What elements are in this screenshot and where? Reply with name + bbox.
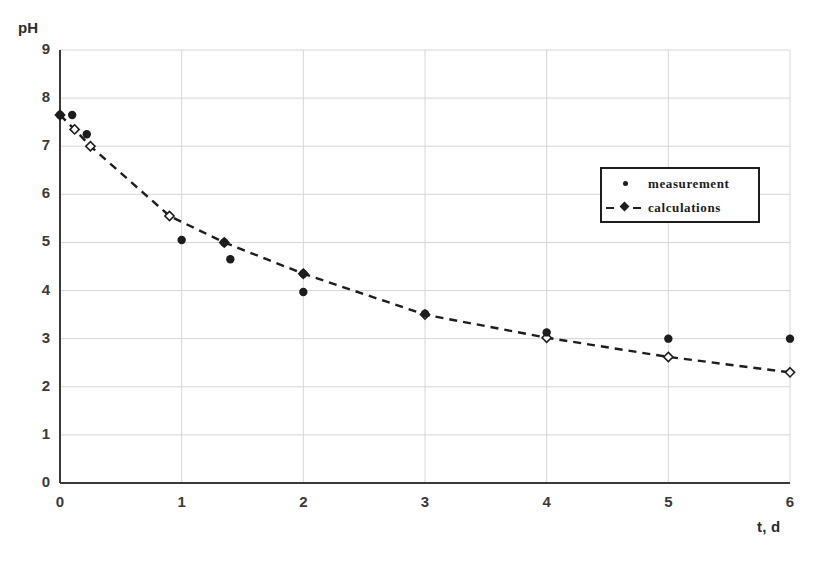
x-tick-label: 5 [656,493,680,510]
y-tick-label: 3 [28,329,50,346]
legend-item-measurement: measurement [602,172,758,196]
y-tick-label: 0 [28,473,50,490]
x-tick-label: 0 [48,493,72,510]
legend-item-calculations: calculations [602,196,758,220]
y-tick-label: 1 [28,425,50,442]
y-tick-label: 6 [28,184,50,201]
ph-vs-time-scatter-chart [0,0,820,563]
x-tick-label: 2 [291,493,315,510]
chart-figure: pH t, d 0123456789 0123456 measurement c… [0,0,820,563]
legend-label-measurement: measurement [648,176,729,192]
legend-dot-icon [602,174,648,194]
gridlines [60,50,790,483]
y-tick-label: 4 [28,281,50,298]
y-tick-label: 5 [28,232,50,249]
legend-label-calculations: calculations [648,200,721,216]
x-tick-label: 4 [535,493,559,510]
x-axis-title: t, d [757,518,780,535]
x-tick-label: 1 [170,493,194,510]
chart-legend: measurement calculations [600,167,760,223]
y-axis-title: pH [18,19,38,36]
y-tick-label: 7 [28,136,50,153]
legend-dashed-diamond-icon [602,198,648,218]
y-tick-label: 2 [28,377,50,394]
x-tick-label: 6 [778,493,802,510]
x-tick-label: 3 [413,493,437,510]
y-tick-label: 8 [28,88,50,105]
y-tick-label: 9 [28,40,50,57]
